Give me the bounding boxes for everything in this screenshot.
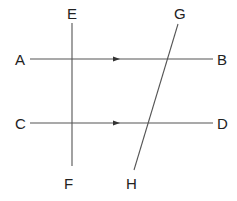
label-e: E <box>67 5 77 22</box>
label-b: B <box>217 51 227 68</box>
label-c: C <box>15 115 26 132</box>
label-f: F <box>64 175 73 192</box>
label-g: G <box>174 5 186 22</box>
line-ab <box>30 57 213 62</box>
parallel-arrow-icon <box>113 121 120 126</box>
parallel-arrow-icon <box>113 57 120 62</box>
parallel-lines-transversals-diagram: A B C D E F G H <box>0 0 237 201</box>
line-gh <box>134 24 178 170</box>
line-cd <box>30 121 213 126</box>
label-d: D <box>217 115 228 132</box>
label-a: A <box>15 51 25 68</box>
label-h: H <box>126 175 137 192</box>
